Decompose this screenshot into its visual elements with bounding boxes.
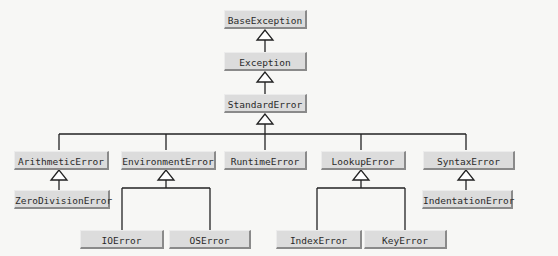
inheritance-connectors bbox=[0, 0, 558, 256]
node-exception: Exception bbox=[224, 52, 307, 71]
node-runtime-error: RuntimeError bbox=[224, 151, 307, 170]
node-syntax-error: SyntaxError bbox=[423, 151, 515, 170]
node-standard-error: StandardError bbox=[224, 94, 307, 113]
node-io-error: IOError bbox=[80, 230, 164, 249]
node-os-error: OSError bbox=[169, 230, 251, 249]
node-index-error: IndexError bbox=[276, 230, 362, 249]
exception-hierarchy-diagram: BaseException Exception StandardError Ar… bbox=[0, 0, 558, 256]
node-lookup-error: LookupError bbox=[321, 151, 406, 170]
node-key-error: KeyError bbox=[364, 230, 447, 249]
node-arithmetic-error: ArithmeticError bbox=[14, 151, 109, 170]
node-indentation-error: IndentationError bbox=[422, 190, 513, 209]
node-environment-error: EnvironmentError bbox=[121, 151, 216, 170]
node-zero-division-error: ZeroDivisionError bbox=[14, 190, 110, 209]
node-base-exception: BaseException bbox=[224, 10, 307, 29]
